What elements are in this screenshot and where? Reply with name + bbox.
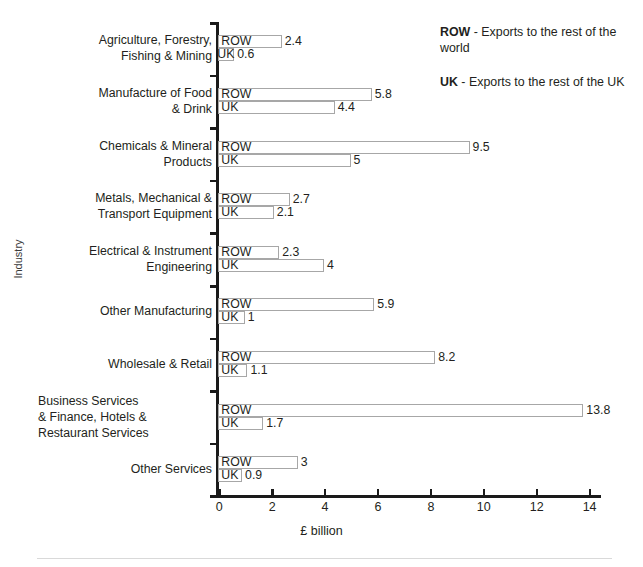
category-label: Agriculture, Forestry, Fishing & Mining [0, 32, 212, 64]
bar-uk: UK [218, 469, 242, 482]
y-axis-tick [210, 443, 218, 446]
bar-value-label: 4.4 [338, 101, 355, 114]
legend-entry-row: ROW - Exports to the rest of the world [440, 24, 640, 56]
bar-value-label: 2.1 [277, 206, 294, 219]
category-label: Chemicals & Mineral Products [0, 138, 212, 170]
bar-series-label: UK [221, 206, 238, 219]
bar-value-label: 5.8 [375, 88, 392, 101]
y-axis-tick [210, 495, 218, 498]
x-axis-line [216, 495, 601, 498]
bar-value-label: 0.9 [245, 469, 262, 482]
legend-description-uk: - Exports to the rest of the UK [458, 75, 625, 89]
y-axis-tick [210, 22, 218, 25]
bar-value-label: 5 [354, 154, 361, 167]
bar-value-label: 0.6 [237, 48, 254, 61]
bar-row: ROW [218, 88, 371, 101]
horizontal-bar-chart: Industry Agriculture, Forestry, Fishing … [0, 0, 643, 567]
x-axis-tick-label: 8 [411, 500, 451, 514]
x-axis-tick [536, 489, 538, 497]
category-label: Wholesale & Retail [0, 356, 212, 372]
bar-value-label: 4 [327, 259, 334, 272]
bar-uk: UK [218, 259, 324, 272]
bar-row: ROW [218, 351, 435, 364]
x-axis-tick-label: 4 [305, 500, 345, 514]
bar-series-label: UK [221, 311, 238, 324]
bar-series-label: UK [221, 364, 238, 377]
bar-value-label: 1.1 [250, 364, 267, 377]
bar-row: ROW [218, 404, 583, 417]
bar-uk: UK [218, 206, 274, 219]
x-axis-tick-label: 14 [570, 500, 610, 514]
legend-entry-uk: UK - Exports to the rest of the UK [440, 74, 640, 90]
bar-value-label: 2.7 [293, 193, 310, 206]
legend-key-uk: UK [440, 75, 458, 89]
bar-series-label: ROW [221, 351, 251, 364]
y-axis-tick [210, 75, 218, 78]
x-axis-tick-label: 6 [358, 500, 398, 514]
x-axis-tick [430, 489, 432, 497]
bar-value-label: 2.3 [282, 246, 299, 259]
y-axis-tick [210, 127, 218, 130]
bar-row: ROW [218, 141, 469, 154]
bar-value-label: 2.4 [285, 35, 302, 48]
bar-value-label: 8.2 [438, 351, 455, 364]
x-axis-tick [483, 489, 485, 497]
bar-value-label: 5.9 [377, 298, 394, 311]
bar-value-label: 1.7 [266, 417, 283, 430]
category-label: Metals, Mechanical & Transport Equipment [0, 190, 212, 222]
category-label: Electrical & Instrument Engineering [0, 243, 212, 275]
bar-series-label: ROW [221, 88, 251, 101]
bar-series-label: UK [217, 48, 234, 61]
bar-value-label: 9.5 [473, 141, 490, 154]
x-axis-tick [377, 489, 379, 497]
bar-series-label: ROW [221, 246, 251, 259]
bar-value-label: 1 [248, 311, 255, 324]
x-axis-title: £ billion [0, 524, 643, 538]
category-label: Other Services [0, 461, 212, 477]
bar-row: ROW [218, 246, 279, 259]
bar-series-label: UK [221, 259, 238, 272]
bar-uk: UK [218, 364, 247, 377]
x-axis-tick [218, 489, 220, 497]
bar-series-label: ROW [221, 404, 251, 417]
y-axis-tick [210, 232, 218, 235]
y-axis-tick [210, 338, 218, 341]
bar-uk: UK [218, 311, 244, 324]
y-axis-tick [210, 390, 218, 393]
category-label: Manufacture of Food & Drink [0, 85, 212, 117]
bar-series-label: UK [221, 154, 238, 167]
bar-uk: UK [218, 101, 334, 114]
chart-legend: ROW - Exports to the rest of the world U… [440, 24, 640, 108]
x-axis-tick-label: 12 [517, 500, 557, 514]
x-axis-tick-label: 2 [252, 500, 292, 514]
y-axis-tick [210, 180, 218, 183]
bar-value-label: 13.8 [586, 404, 610, 417]
footer-divider [37, 558, 612, 559]
bar-uk: UK [218, 154, 350, 167]
legend-key-row: ROW [440, 25, 470, 39]
x-axis-tick [324, 489, 326, 497]
x-axis-tick-label: 0 [199, 500, 239, 514]
category-label: Business Services & Finance, Hotels & Re… [38, 393, 218, 441]
x-axis-tick-label: 10 [464, 500, 504, 514]
bar-uk: UK [218, 417, 263, 430]
bar-value-label: 3 [301, 456, 308, 469]
bar-series-label: ROW [221, 141, 251, 154]
footer-caption [37, 562, 612, 567]
y-axis-tick [210, 285, 218, 288]
bar-uk: UK [218, 48, 234, 61]
category-label: Other Manufacturing [0, 303, 212, 319]
x-axis-tick [271, 489, 273, 497]
bar-series-label: UK [221, 469, 238, 482]
bar-series-label: UK [221, 417, 238, 430]
bar-series-label: UK [221, 101, 238, 114]
x-axis-tick [589, 489, 591, 497]
bar-row: ROW [218, 298, 374, 311]
